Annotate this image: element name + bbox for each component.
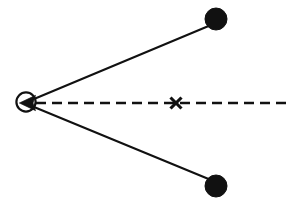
lower-node-filled-dot <box>205 175 227 197</box>
upper-node-filled-dot <box>205 8 227 30</box>
diagram-canvas <box>0 0 300 208</box>
vertex-angle-diagram <box>0 0 300 208</box>
